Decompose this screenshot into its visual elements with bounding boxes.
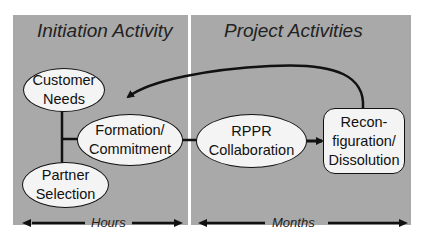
node-label: Needs (33, 90, 96, 109)
node-label: Recon- (329, 113, 400, 132)
customer-needs-node: CustomerNeeds (23, 68, 105, 112)
node-label: Partner (36, 166, 96, 185)
months-label: Months (272, 215, 315, 230)
hours-label: Hours (91, 215, 126, 230)
reconfiguration-dissolution-node: Recon-figuration/Dissolution (323, 108, 405, 174)
node-label: Customer (33, 71, 96, 90)
node-label: Collaboration (209, 141, 294, 160)
node-label: Dissolution (329, 151, 400, 170)
node-label: Commitment (89, 140, 171, 159)
node-label: figuration/ (329, 132, 400, 151)
node-label: Selection (36, 185, 96, 204)
node-label: Formation/ (89, 121, 171, 140)
formation-commitment-node: Formation/Commitment (77, 114, 183, 166)
partner-selection-node: PartnerSelection (22, 162, 109, 208)
node-label: RPPR (209, 122, 294, 141)
feedback-arrow (128, 65, 363, 108)
rppr-collaboration-node: RPPRCollaboration (196, 114, 307, 168)
